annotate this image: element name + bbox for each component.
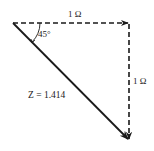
impedance-triangle-diagram (0, 0, 154, 151)
angle-label: 45° (38, 29, 51, 39)
reactance-label: 1 Ω (133, 76, 146, 86)
impedance-label: Z = 1.414 (28, 90, 65, 100)
resistance-label: 1 Ω (68, 9, 81, 19)
impedance-vector-arrow (13, 23, 128, 139)
